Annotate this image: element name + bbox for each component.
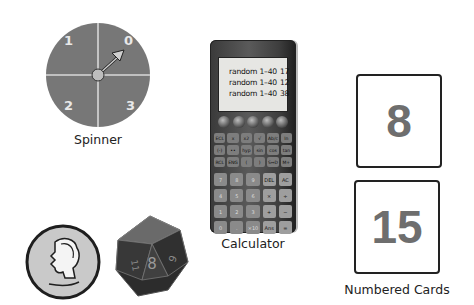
calc-key: M+: [281, 157, 292, 167]
calc-key: Ab/c: [267, 133, 278, 143]
screen-value: 17: [280, 67, 289, 76]
calc-key: S⇔D: [267, 157, 278, 167]
calc-key: hyp: [241, 145, 252, 155]
svg-text:11: 11: [129, 259, 141, 272]
round-button: [262, 116, 274, 128]
calc-key: √: [254, 133, 265, 143]
calc-key: (-): [214, 145, 225, 155]
calc-key: Ans: [263, 221, 276, 234]
spinner-label: Spinner: [74, 132, 122, 147]
calc-key: 5: [230, 189, 243, 202]
calc-key: 6: [246, 189, 259, 202]
screen-line: random 1–4017: [229, 66, 287, 77]
numbered-card: 8: [356, 74, 442, 168]
calc-key: ): [254, 157, 265, 167]
calc-key: x2: [241, 133, 252, 143]
calc-key: 3: [246, 205, 259, 218]
round-button: [276, 116, 288, 128]
screen-value: 38: [280, 89, 289, 98]
calculator-screen: random 1–4017 random 1–4012 random 1–403…: [218, 57, 288, 112]
calc-key: ×10: [246, 221, 259, 234]
calc-key: DEL: [263, 173, 276, 186]
calc-key: =: [279, 221, 292, 234]
calc-key: ×: [263, 189, 276, 202]
calc-key: RCL: [214, 157, 225, 167]
coin-icon: [25, 224, 101, 300]
calculator: random 1–4017 random 1–4012 random 1–403…: [210, 40, 296, 233]
calc-key: 0: [214, 221, 227, 234]
calc-key: ••: [227, 145, 238, 155]
calculator-function-keys: ECL x x2 √ Ab/c ln (-) •• hyp sin cos ta…: [214, 133, 292, 167]
screen-value: 12: [280, 78, 289, 87]
round-button: [218, 116, 230, 128]
coin: [25, 224, 101, 304]
calc-key: 2: [230, 205, 243, 218]
die-face-value: 8: [147, 255, 157, 273]
spinner: 1 0 2 3: [46, 23, 150, 127]
screen-command: random 1–40: [229, 78, 277, 87]
spinner-section-3: 3: [126, 98, 135, 113]
calc-key: AC: [279, 173, 292, 186]
calc-key: x: [227, 133, 238, 143]
screen-line: random 1–4012: [229, 77, 287, 88]
calc-key: 8: [230, 173, 243, 186]
screen-line: random 1–4038: [229, 88, 287, 99]
calc-key: .: [230, 221, 243, 234]
numbered-card: 15: [354, 180, 440, 274]
calc-key: 7: [214, 173, 227, 186]
round-button: [233, 116, 245, 128]
screen-command: random 1–40: [229, 89, 277, 98]
calc-key: 4: [214, 189, 227, 202]
d20-icon: 8 9 11: [112, 214, 192, 298]
calculator-number-keys: 7 8 9 DEL AC 4 5 6 × ÷ 1 2 3 + − 0 . ×10…: [214, 173, 292, 234]
calc-key: ln: [281, 133, 292, 143]
spinner-section-1: 1: [64, 33, 73, 48]
spinner-section-0: 0: [124, 33, 133, 48]
round-button: [247, 116, 259, 128]
calc-key: 9: [246, 173, 259, 186]
screen-command: random 1–40: [229, 67, 277, 76]
calc-key: −: [279, 205, 292, 218]
calc-key: ENG: [227, 157, 238, 167]
spinner-section-2: 2: [64, 98, 73, 113]
calc-key: ECL: [214, 133, 225, 143]
calc-key: tan: [281, 145, 292, 155]
calc-key: sin: [254, 145, 265, 155]
calc-key: 1: [214, 205, 227, 218]
calculator-nav-buttons: [218, 116, 288, 130]
calc-key: +: [263, 205, 276, 218]
calc-key: (: [241, 157, 252, 167]
calc-key: ÷: [279, 189, 292, 202]
numbered-cards-label: Numbered Cards: [344, 282, 449, 297]
calculator-label: Calculator: [221, 236, 284, 251]
calc-key: cos: [267, 145, 278, 155]
d20-die: 8 9 11: [112, 214, 192, 302]
